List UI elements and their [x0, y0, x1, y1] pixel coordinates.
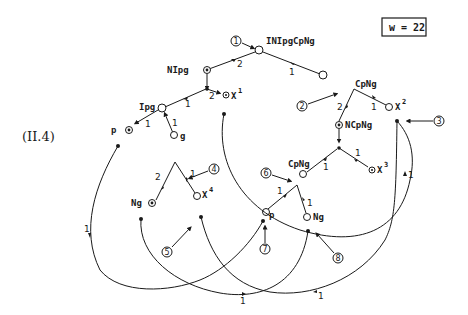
ncpng-label: NCpNg [345, 120, 372, 130]
edge-root-nipg [209, 52, 255, 69]
ncpng-node-dot [338, 124, 341, 127]
edge-ng-v6 [297, 185, 306, 213]
x2-label: X [395, 102, 401, 112]
edge-label: 1 [190, 169, 196, 179]
nipg-node-dot [206, 69, 209, 72]
g-node [171, 132, 178, 139]
x2-sup: 2 [402, 98, 406, 106]
edge-label: 1 [145, 119, 151, 129]
ipg-label: Ipg [139, 102, 155, 112]
x3-label: X [377, 165, 383, 175]
curve-arrow [313, 290, 317, 293]
edge-label: 1 [185, 99, 191, 109]
nipg-label: NIpg [167, 65, 189, 75]
x2-node [386, 104, 393, 111]
callout-2-arrow [308, 94, 336, 104]
propagator-curve [201, 121, 397, 293]
feynman-graph: (II.4) w = 22 INIpgCpNg 1 2 1 NIpg 2 X 1… [0, 0, 468, 315]
edge-label: 1 [323, 162, 329, 172]
edge-label: 2 [155, 172, 161, 182]
x3-node-dot [371, 169, 373, 171]
edge-cpng-x2 [354, 89, 386, 105]
x1-label: X [231, 91, 237, 101]
equation-label: (II.4) [22, 129, 55, 144]
callout-1-arrow [242, 43, 253, 48]
callout-2-label: 2 [300, 102, 305, 111]
propagator-curve [91, 146, 263, 289]
ng-low-label: Ng [313, 212, 324, 222]
x1-node-dot [225, 94, 227, 96]
callout-5-arrow [172, 228, 190, 247]
p-top-node-dot [128, 129, 131, 132]
curve-arrow [403, 171, 407, 176]
edge-label: 1 [355, 148, 361, 158]
edge-label: 1 [408, 170, 414, 180]
edge-label: 2 [337, 102, 343, 112]
callout-3-label: 3 [437, 117, 442, 126]
leaf-node [319, 71, 327, 79]
edge-label: 2 [237, 59, 243, 69]
edge-label: 1 [307, 198, 313, 208]
x4-label: X [202, 190, 208, 200]
callout-4-label: 4 [212, 165, 217, 174]
g-label: g [180, 131, 185, 141]
callout-5-label: 5 [165, 248, 170, 257]
diagram-canvas: (II.4) w = 22 INIpgCpNg 1 2 1 NIpg 2 X 1… [0, 0, 468, 315]
edge-label: 1 [318, 291, 324, 301]
ng-left-label: Ng [131, 198, 142, 208]
edge-label: 1 [172, 118, 178, 128]
ng-low-node [304, 214, 311, 221]
edge-label: 1 [84, 224, 90, 234]
edge-label: 2 [209, 91, 215, 101]
ipg-node [158, 104, 166, 112]
edge-label: 1 [289, 67, 295, 77]
root-node [255, 46, 263, 54]
callout-1-label: 1 [234, 37, 239, 46]
cpng-low-node [300, 171, 307, 178]
cpng-top-label: CpNg [355, 79, 377, 89]
callout-7-label: 7 [263, 245, 268, 254]
x4-node [194, 193, 201, 200]
edge-cpng-low-junction [307, 149, 337, 172]
root-label: INIpgCpNg [266, 36, 315, 46]
ng-left-node-dot [151, 202, 154, 205]
callout-8-label: 8 [336, 254, 341, 263]
edge-label: 1 [371, 102, 377, 112]
edge-label: 1 [240, 296, 246, 306]
callout-6-label: 6 [264, 169, 269, 178]
x3-sup: 3 [384, 161, 388, 169]
cpng-low-label: CpNg [288, 159, 310, 169]
edge-label: 1 [277, 186, 283, 196]
callout-6-arrow [272, 175, 290, 181]
p-top-label: p [111, 125, 117, 135]
edge-junction-x3 [339, 148, 368, 167]
weight-label: w = 22 [389, 22, 425, 33]
x4-sup: 4 [209, 186, 213, 194]
x1-sup: 1 [238, 87, 242, 95]
